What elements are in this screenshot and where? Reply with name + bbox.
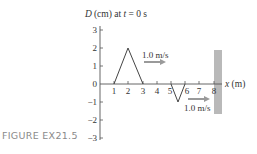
y-tick-labels: 3 2 1 0 −1 −2 −3 — [87, 25, 97, 143]
wave-pulse-figure: 3 2 1 0 −1 −2 −3 1 2 3 4 5 6 7 8 D(cm) a… — [0, 0, 257, 154]
velocity-label-1: 1.0 m/s — [142, 50, 169, 60]
y-tick-label: −1 — [87, 97, 97, 107]
x-tick-label: 2 — [126, 86, 131, 96]
x-tick-labels: 1 2 3 4 5 6 7 8 — [112, 86, 217, 96]
figure-caption: FIGURE EX21.5 — [2, 130, 78, 141]
y-tick-label: −2 — [87, 115, 97, 125]
wall — [214, 50, 222, 114]
y-tick-label: −3 — [87, 133, 97, 143]
x-tick-label: 6 — [185, 86, 190, 96]
x-tick-label: 4 — [155, 86, 160, 96]
y-tick-label: 2 — [93, 43, 98, 53]
x-axis-title: x (m) — [224, 79, 245, 90]
x-tick-label: 1 — [112, 86, 117, 96]
velocity-label-2: 1.0 m/s — [184, 103, 211, 113]
x-tick-label: 8 — [212, 86, 217, 96]
pulse-1 — [114, 48, 143, 84]
arrow-right-icon — [188, 96, 210, 102]
y-tick-label: 3 — [93, 25, 98, 35]
x-tick-label: 7 — [197, 86, 202, 96]
y-tick-label: 1 — [93, 61, 98, 71]
x-tick-label: 3 — [141, 86, 146, 96]
y-tick-label: 0 — [93, 79, 98, 89]
y-axis-title: D(cm) at t = 0 s — [84, 9, 147, 20]
pulse-2 — [171, 84, 185, 102]
